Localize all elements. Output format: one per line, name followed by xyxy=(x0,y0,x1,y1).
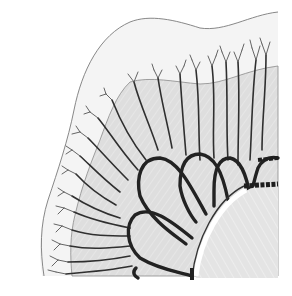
medusa-drawing xyxy=(0,0,292,296)
medusa-illustration: Scientific line drawing of one quadrant … xyxy=(0,0,292,296)
